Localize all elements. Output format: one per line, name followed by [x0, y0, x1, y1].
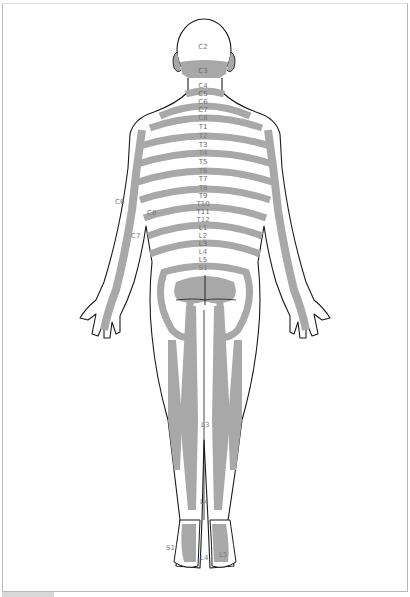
label-foot-l5: L5 [219, 551, 227, 559]
label-foot-l4: L4 [200, 554, 209, 562]
label-foot-s1: S1 [166, 544, 175, 552]
label-c7: C7 [198, 106, 207, 114]
label-c5: C5 [198, 90, 207, 98]
label-c8: C8 [198, 114, 207, 122]
label-t9: T9 [198, 192, 208, 200]
label-t2: T2 [198, 132, 208, 140]
label-l1: L1 [199, 224, 207, 232]
label-t7: T7 [198, 175, 208, 183]
label-t4: T4 [198, 149, 208, 157]
label-l4: L4 [199, 248, 208, 256]
label-t6: T6 [198, 167, 208, 175]
label-t5: T5 [198, 158, 208, 166]
label-c6: C6 [198, 98, 208, 106]
label-t8: T8 [198, 184, 208, 192]
label-thigh-l3: L3 [201, 421, 209, 429]
label-l3: L3 [199, 240, 207, 248]
label-t3: T3 [198, 141, 208, 149]
label-t10: T10 [195, 200, 209, 208]
label-s1: S1 [199, 264, 208, 272]
label-c4: C4 [198, 82, 208, 90]
label-t1: T1 [198, 123, 208, 131]
dermatome-figure: C2 C3 C4 C5 C6 C7 C8 T1 T2 T3 T4 T5 T6 T… [0, 0, 410, 597]
label-t11: T11 [195, 208, 209, 216]
label-l2: L2 [199, 232, 207, 240]
label-l5: L5 [199, 256, 207, 264]
label-c2: C2 [198, 43, 207, 51]
label-t12: T12 [195, 216, 209, 224]
label-arm-c6: C6 [115, 198, 125, 206]
label-ankle-l4: L4 [200, 498, 209, 506]
label-arm-c7: C7 [131, 232, 140, 240]
label-c3: C3 [198, 67, 207, 75]
label-arm-c8: C8 [147, 209, 156, 217]
